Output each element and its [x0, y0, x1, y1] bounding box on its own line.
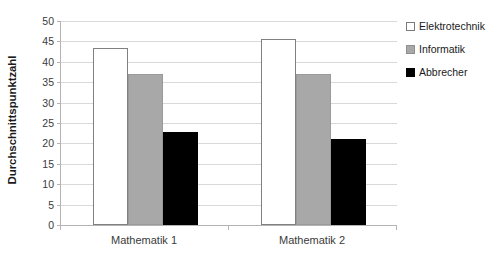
y-axis-tick-label: 5 — [26, 199, 54, 211]
y-axis-tick-label: 15 — [26, 158, 54, 170]
y-axis-tick-labels: 05101520253035404550 — [26, 0, 54, 240]
legend-item-label: Elektrotechnik — [419, 20, 485, 32]
bar-chart: Durchschnittspunktzahl 05101520253035404… — [0, 0, 496, 263]
bar — [331, 139, 366, 225]
legend-swatch-white-icon — [406, 22, 415, 31]
x-axis-tick-mark — [60, 225, 61, 230]
y-axis-title-text: Durchschnittspunktzahl — [6, 56, 18, 185]
x-axis-tick-mark — [228, 225, 229, 230]
y-axis-tick-label: 45 — [26, 35, 54, 47]
y-axis-title: Durchschnittspunktzahl — [0, 0, 24, 240]
legend-item: Elektrotechnik — [406, 16, 496, 36]
y-axis-tick-label: 50 — [26, 15, 54, 27]
y-axis-tick-label: 25 — [26, 117, 54, 129]
legend-item: Informatik — [406, 39, 496, 59]
bar — [128, 74, 163, 225]
x-axis-tick-label: Mathematik 1 — [111, 234, 177, 246]
bar — [261, 39, 296, 225]
bar — [163, 132, 198, 225]
y-axis-tick-label: 35 — [26, 76, 54, 88]
legend-item-label: Informatik — [419, 43, 465, 55]
x-axis-tick-label: Mathematik 2 — [279, 234, 345, 246]
x-axis-tick-mark — [396, 225, 397, 230]
bar — [93, 48, 128, 225]
y-axis-tick-label: 40 — [26, 56, 54, 68]
legend-item-label: Abbrecher — [419, 66, 467, 78]
bars-layer — [61, 21, 397, 225]
bar — [296, 74, 331, 225]
y-axis-tick-label: 0 — [26, 219, 54, 231]
y-axis-tick-label: 20 — [26, 137, 54, 149]
legend-item: Abbrecher — [406, 62, 496, 82]
chart-legend: ElektrotechnikInformatikAbbrecher — [406, 16, 496, 85]
legend-swatch-gray-icon — [406, 45, 415, 54]
y-axis-tick-label: 10 — [26, 178, 54, 190]
y-axis-tick-label: 30 — [26, 97, 54, 109]
legend-swatch-black-icon — [406, 68, 415, 77]
plot-area — [60, 21, 397, 225]
